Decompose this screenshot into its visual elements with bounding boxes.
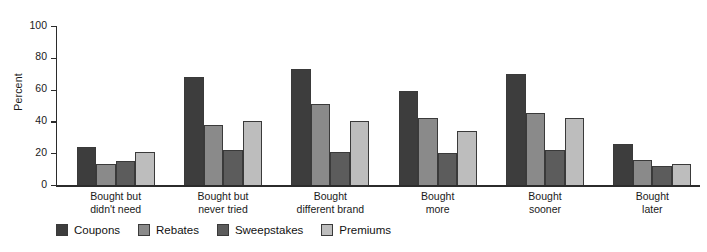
- bar: [311, 104, 331, 185]
- legend-item: Coupons: [56, 224, 120, 236]
- x-axis-category-label: Boughtdifferent brand: [297, 190, 365, 215]
- legend-item-label: Coupons: [74, 224, 120, 236]
- y-axis-tick: 40: [51, 121, 56, 122]
- bar: [204, 125, 224, 185]
- bar: [672, 164, 692, 185]
- bar: [565, 118, 585, 185]
- x-axis-category-label: Boughtlater: [636, 190, 669, 215]
- bar: [418, 118, 438, 185]
- legend-item: Premiums: [321, 224, 391, 236]
- x-axis-category-label-line: more: [421, 203, 454, 216]
- bar: [545, 150, 565, 185]
- bar-group-bars: [399, 26, 477, 185]
- chart-legend: CouponsRebatesSweepstakesPremiums: [56, 224, 391, 236]
- legend-swatch-sweepstakes: [217, 224, 229, 236]
- bar-group-bars: [613, 26, 691, 185]
- bar: [116, 161, 136, 185]
- x-axis-category-label-line: didn't need: [90, 203, 141, 216]
- bar: [330, 152, 350, 185]
- legend-swatch-premiums: [321, 224, 333, 236]
- bar-group: Boughtsooner: [506, 26, 584, 185]
- bar: [291, 69, 311, 185]
- x-axis-category-label: Bought butnever tried: [198, 190, 249, 215]
- bar: [506, 74, 526, 185]
- bar-chart: Percent 100806040200 Bought butdidn't ne…: [0, 0, 707, 252]
- x-axis-category-label-line: later: [636, 203, 669, 216]
- y-axis-tick-label: 60: [35, 82, 47, 94]
- bar-group: Bought butdidn't need: [77, 26, 155, 185]
- y-axis-tick-label: 40: [35, 114, 47, 126]
- legend-swatch-coupons: [56, 224, 68, 236]
- x-axis-category-label-line: Bought: [636, 190, 669, 203]
- y-axis-title: Percent: [12, 52, 24, 132]
- x-axis-category-label-line: Bought but: [90, 190, 141, 203]
- bar: [96, 164, 116, 185]
- y-axis-tick: 0: [51, 185, 56, 186]
- x-axis-category-label: Boughtsooner: [528, 190, 561, 215]
- bar-group-bars: [77, 26, 155, 185]
- bar-group: Boughtmore: [399, 26, 477, 185]
- y-axis-line: [56, 26, 57, 185]
- bar: [526, 113, 546, 185]
- bar-group-bars: [506, 26, 584, 185]
- y-axis-tick: 20: [51, 153, 56, 154]
- legend-item-label: Premiums: [339, 224, 391, 236]
- bar: [223, 150, 243, 185]
- bar: [457, 131, 477, 185]
- y-axis-tick: 80: [51, 58, 56, 59]
- bar: [652, 166, 672, 185]
- legend-item: Rebates: [138, 224, 199, 236]
- bar: [243, 121, 263, 185]
- bar: [350, 121, 370, 185]
- x-axis-category-label: Bought butdidn't need: [90, 190, 141, 215]
- bar: [77, 147, 97, 185]
- bar: [438, 153, 458, 185]
- legend-item-label: Rebates: [156, 224, 199, 236]
- x-axis-category-label-line: never tried: [198, 203, 249, 216]
- legend-item-label: Sweepstakes: [235, 224, 303, 236]
- x-axis-category-label: Boughtmore: [421, 190, 454, 215]
- bar: [135, 152, 155, 185]
- y-axis-tick-label: 80: [35, 50, 47, 62]
- y-axis-tick: 100: [51, 26, 56, 27]
- plot-area: 100806040200 Bought butdidn't needBought…: [56, 26, 700, 185]
- x-axis-category-label-line: Bought: [528, 190, 561, 203]
- legend-swatch-rebates: [138, 224, 150, 236]
- bar-group: Boughtlater: [613, 26, 691, 185]
- x-axis-category-label-line: sooner: [528, 203, 561, 216]
- bar-group: Boughtdifferent brand: [291, 26, 369, 185]
- bar-group-bars: [291, 26, 369, 185]
- y-axis-tick-label: 100: [29, 19, 47, 31]
- y-axis-tick: 60: [51, 90, 56, 91]
- bar: [399, 91, 419, 185]
- bar: [184, 77, 204, 185]
- x-axis-category-label-line: Bought but: [198, 190, 249, 203]
- y-axis-tick-label: 20: [35, 146, 47, 158]
- x-axis-category-label-line: Bought: [421, 190, 454, 203]
- bar: [613, 144, 633, 185]
- bar: [633, 160, 653, 185]
- x-axis-category-label-line: different brand: [297, 203, 365, 216]
- y-axis-tick-label: 0: [41, 178, 47, 190]
- bar-group-bars: [184, 26, 262, 185]
- bar-group: Bought butnever tried: [184, 26, 262, 185]
- x-axis-line: [56, 185, 700, 187]
- legend-item: Sweepstakes: [217, 224, 303, 236]
- x-axis-category-label-line: Bought: [297, 190, 365, 203]
